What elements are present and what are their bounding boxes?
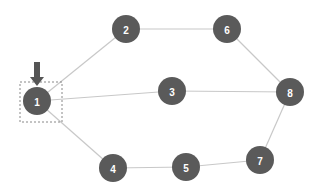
node-label: 8 [287,88,293,99]
graph-canvas: 12345678 [0,0,324,193]
node-3[interactable]: 3 [158,77,186,105]
node-label: 4 [110,164,116,175]
node-label: 2 [123,25,129,36]
node-7[interactable]: 7 [246,146,274,174]
node-label: 3 [169,87,175,98]
node-label: 1 [34,97,40,108]
node-label: 7 [257,156,263,167]
edge-1-2 [37,29,126,101]
node-8[interactable]: 8 [276,78,304,106]
node-5[interactable]: 5 [172,153,200,181]
node-1[interactable]: 1 [23,87,51,115]
node-6[interactable]: 6 [213,15,241,43]
node-4[interactable]: 4 [99,154,127,182]
edge-3-8 [172,91,290,92]
edge-1-4 [37,101,113,168]
edge-1-3 [37,91,172,101]
node-label: 6 [224,25,230,36]
node-label: 5 [183,163,189,174]
node-2[interactable]: 2 [112,15,140,43]
